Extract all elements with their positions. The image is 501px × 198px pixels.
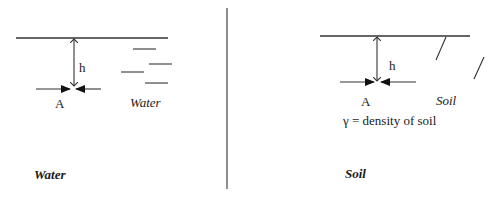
pressure-comparison-diagram: h A Water Water h A Soil γ = density of …: [0, 0, 501, 198]
soil-panel-graphics: [320, 36, 484, 82]
water-caption: Water: [34, 168, 66, 181]
water-dash-marks-icon: [121, 49, 172, 83]
diagram-graphics: [0, 0, 501, 198]
water-medium-label: Water: [130, 96, 161, 109]
soil-slash-marks-icon: [436, 37, 484, 79]
soil-point-label: A: [361, 95, 370, 108]
soil-caption: Soil: [345, 167, 366, 180]
water-depth-label: h: [79, 61, 86, 74]
water-point-label: A: [55, 97, 64, 110]
soil-medium-label: Soil: [436, 94, 456, 107]
soil-density-note: γ = density of soil: [343, 114, 436, 127]
water-panel-graphics: [16, 38, 172, 89]
soil-depth-label: h: [389, 59, 396, 72]
